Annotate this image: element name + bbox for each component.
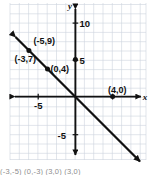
data-point [26,48,31,53]
point-label-4-0: (4,0) [108,85,127,95]
y-tick-label-10: 10 [80,18,91,29]
coordinate-plane-chart: (-5,9) (-3,7) (0,4) (4,0) 10 5 -5 -5 y x [0,0,157,175]
y-tick-label-5: 5 [80,55,86,66]
point-label-0-4: (0,4) [51,64,70,74]
data-point [45,67,50,72]
answer-options-strip: (-3,-5) (0,-3) (3,0) (3,0) [0,167,157,175]
point-label-neg5-9: (-5,9) [34,36,56,46]
data-point [73,57,78,62]
point-label-neg3-7: (-3,7) [15,54,37,64]
plot-background [10,3,146,160]
answer-options-text: (-3,-5) (0,-3) (3,0) (3,0) [0,167,81,175]
graph-figure: (-5,9) (-3,7) (0,4) (4,0) 10 5 -5 -5 y x… [0,0,157,175]
y-tick-label-neg5: -5 [58,130,67,141]
x-tick-label-neg5: -5 [34,100,43,111]
x-axis-label: x [142,92,148,102]
